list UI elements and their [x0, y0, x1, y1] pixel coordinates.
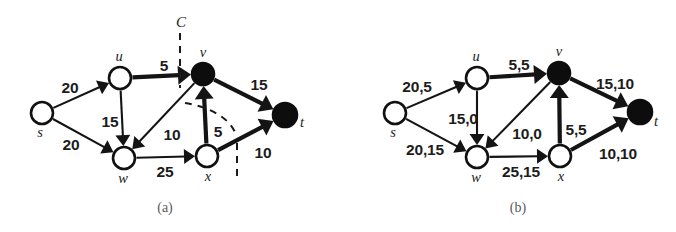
- panel-a-edge-label-x-v: 5: [214, 123, 223, 140]
- panel-a-node-s: [31, 102, 53, 124]
- panel-a-edge-u-w-line: [121, 90, 123, 136]
- panel-a-node-v: [192, 63, 214, 85]
- panel-a-caption: (a): [157, 200, 173, 216]
- panel-b-edge-label-u-v: 5,5: [509, 56, 531, 73]
- panel-b-node-label-w: w: [471, 169, 481, 185]
- panel-a-edge-label-x-t: 10: [255, 144, 272, 161]
- panel-b-node-v: [548, 62, 570, 84]
- edges-layer: [53, 65, 629, 164]
- cut-curve-arc: [185, 103, 236, 135]
- panel-a-node-t: [273, 103, 297, 127]
- panel-a-node-u: [109, 67, 131, 89]
- panel-a-edge-u-w-arrowhead: [115, 135, 130, 146]
- panel-b-edge-label-v-t: 15,10: [596, 75, 634, 92]
- panel-a-edge-w-x-line: [136, 157, 185, 158]
- panel-a-edge-label-u-w: 15: [102, 113, 119, 130]
- panel-a-edge-label-v-w: 10: [164, 126, 181, 143]
- panel-b-caption: (b): [510, 200, 527, 216]
- panel-b-edge-u-w-arrowhead: [470, 134, 485, 145]
- panel-b-edge-label-u-w: 15,0: [448, 110, 477, 127]
- panel-b-edge-label-x-t: 10,10: [599, 145, 637, 162]
- panel-a-node-label-v: v: [200, 44, 207, 60]
- panel-a-edge-label-w-x: 25: [157, 163, 174, 180]
- panel-b-edge-u-v-arrowhead: [533, 65, 547, 84]
- panel-a-edge-w-x-arrowhead: [184, 149, 195, 164]
- panel-b-edge-x-v-arrowhead: [550, 85, 569, 98]
- panel-a-node-label-s: s: [37, 124, 43, 140]
- panel-a-edge-x-v-arrowhead: [195, 86, 214, 99]
- panel-a-node-label-w: w: [118, 170, 128, 186]
- panel-b-edge-label-x-v: 5,5: [566, 121, 588, 138]
- panel-b-node-label-s: s: [390, 124, 396, 140]
- panel-b-edge-label-v-w: 10,0: [512, 125, 541, 142]
- panel-b-node-x: [549, 145, 571, 167]
- panel-a-edge-label-s-u: 20: [62, 79, 79, 96]
- panel-b-node-u: [466, 67, 488, 89]
- panel-b-node-label-v: v: [556, 43, 563, 59]
- panel-a-edge-label-v-t: 15: [251, 76, 268, 93]
- panel-b-edge-label-w-x: 25,15: [502, 163, 540, 180]
- panel-b-edge-label-s-w: 20,15: [406, 141, 444, 158]
- panel-b-node-t: [628, 100, 652, 124]
- panel-b-node-label-x: x: [557, 168, 565, 184]
- panel-b-edge-u-v-line: [489, 74, 535, 77]
- cut-label-C: C: [176, 14, 187, 30]
- panel-a-edge-x-v-line: [204, 97, 206, 143]
- panel-b-edge-w-x-line: [489, 156, 538, 157]
- panel-b-edge-w-x-arrowhead: [537, 149, 548, 164]
- panel-b-edge-label-s-u: 20,5: [402, 78, 432, 95]
- panel-a-node-w: [113, 147, 135, 169]
- panel-b-edge-x-v-line: [559, 96, 560, 143]
- panel-a-node-label-x: x: [204, 168, 212, 184]
- panel-b-node-label-t: t: [654, 113, 659, 129]
- panel-a-node-label-t: t: [300, 114, 305, 130]
- panel-a-edge-label-s-w: 20: [63, 136, 80, 153]
- figure-canvas: 2020155102551510suwvxt20,520,1515,05,510…: [0, 0, 676, 232]
- figure-root: 2020155102551510suwvxt20,520,1515,05,510…: [0, 0, 676, 232]
- panel-a-edge-u-v-line: [132, 75, 179, 77]
- panel-b-node-s: [384, 102, 406, 124]
- panel-a-node-label-u: u: [115, 48, 122, 64]
- panel-a-node-x: [196, 145, 218, 167]
- panel-a-edge-label-u-v: 5: [160, 57, 169, 74]
- panel-b-node-w: [466, 146, 488, 168]
- panel-b-node-label-u: u: [472, 48, 479, 64]
